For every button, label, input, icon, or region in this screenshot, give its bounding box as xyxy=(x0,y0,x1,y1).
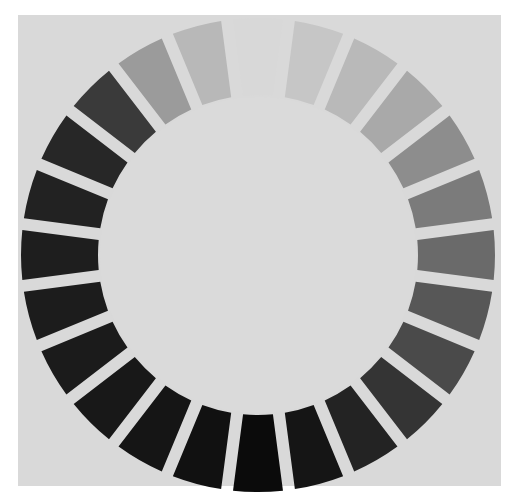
grayscale-value-ring xyxy=(0,0,515,499)
ring-segment xyxy=(233,414,283,492)
ring-segment xyxy=(21,230,99,280)
ring-center-disc xyxy=(100,97,416,413)
ring-segment xyxy=(233,18,283,96)
ring-segment xyxy=(417,230,495,280)
